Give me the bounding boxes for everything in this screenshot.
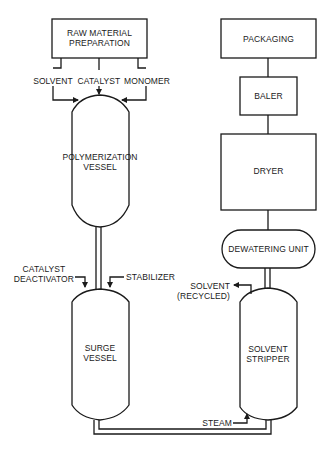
catalyst-deactivator-line2: DEACTIVATOR [10, 274, 74, 284]
catalyst-deactivator-line [75, 277, 85, 287]
steam-line [233, 414, 247, 423]
baler-label: BALER [240, 91, 297, 101]
catalyst-deactivator-line1: CATALYST [10, 264, 74, 274]
raw-material-line2: PREPARATION [52, 38, 147, 48]
raw-material-label: RAW MATERIAL PREPARATION [52, 28, 147, 48]
surge-line1: SURGE [70, 343, 130, 353]
stripper-to-dewatering-pipe [265, 268, 270, 288]
raw-material-line1: RAW MATERIAL [52, 28, 147, 38]
stripper-line2: STRIPPER [238, 354, 298, 364]
solvent-recycled-label: SOLVENT (RECYCLED) [170, 281, 230, 301]
polymerization-line2: VESSEL [60, 162, 140, 172]
solvent-recycled-line [234, 285, 251, 294]
poly-to-surge-pipe [96, 227, 101, 290]
surge-vessel-label: SURGE VESSEL [70, 343, 130, 363]
solvent-stream-label: SOLVENT [30, 76, 76, 86]
process-flow-diagram [0, 0, 332, 451]
stripper-line1: SOLVENT [238, 344, 298, 354]
surge-line2: VESSEL [70, 353, 130, 363]
catalyst-stream-label: CATALYST [76, 76, 122, 86]
monomer-stream-label: MONOMER [124, 76, 170, 86]
dewatering-unit-label: DEWATERING UNIT [222, 244, 315, 254]
packaging-label: PACKAGING [221, 34, 316, 44]
catalyst-deactivator-label: CATALYST DEACTIVATOR [10, 264, 74, 284]
solvent-recycled-line2: (RECYCLED) [170, 291, 230, 301]
steam-label: STEAM [190, 418, 232, 428]
polymerization-vessel-label: POLYMERIZATION VESSEL [60, 152, 140, 172]
stabilizer-line [110, 277, 124, 287]
solvent-stripper-label: SOLVENT STRIPPER [238, 344, 298, 364]
stabilizer-label: STABILIZER [126, 272, 175, 282]
polymerization-line1: POLYMERIZATION [60, 152, 140, 162]
dryer-label: DRYER [221, 166, 316, 176]
solvent-recycled-line1: SOLVENT [170, 281, 230, 291]
surge-to-stripper-pipe [94, 420, 271, 434]
